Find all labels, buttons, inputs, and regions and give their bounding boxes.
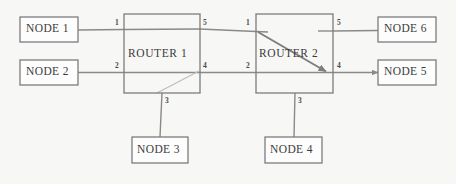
- node-box-node4[interactable]: [265, 137, 322, 163]
- link-router2-node6: [333, 31, 378, 32]
- router1-internal-path: [157, 71, 199, 93]
- link-router1-router2-top: [200, 29, 256, 32]
- node-box-node6[interactable]: [378, 17, 436, 42]
- node-box-node5[interactable]: [378, 60, 436, 85]
- router1-port1-throughline: [124, 29, 200, 30]
- network-diagram: [0, 0, 456, 184]
- node-box-node2[interactable]: [20, 60, 78, 85]
- link-node1-router1: [78, 30, 124, 31]
- router-box-router1[interactable]: [124, 14, 200, 93]
- node-box-node3[interactable]: [132, 137, 188, 163]
- node-box-node1[interactable]: [20, 17, 78, 42]
- link-router2-node4: [294, 93, 295, 137]
- router2-port1-stub: [256, 32, 268, 33]
- link-router1-node3: [160, 93, 162, 137]
- router2-internal-path: [258, 32, 326, 72]
- diagram-canvas: NODE 1 NODE 2 ROUTER 1 ROUTER 2 NODE 6 N…: [0, 0, 456, 184]
